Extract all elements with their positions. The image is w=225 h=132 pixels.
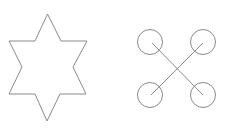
diagram-canvas <box>0 0 225 132</box>
rotor-circle-bottom-left <box>138 83 163 108</box>
quadcopter-x-icon <box>138 30 216 108</box>
rotor-circle-top-left <box>138 30 163 55</box>
rotor-circle-top-right <box>191 30 216 55</box>
six-pointed-star-icon <box>9 14 87 121</box>
diagram-svg <box>0 0 225 132</box>
